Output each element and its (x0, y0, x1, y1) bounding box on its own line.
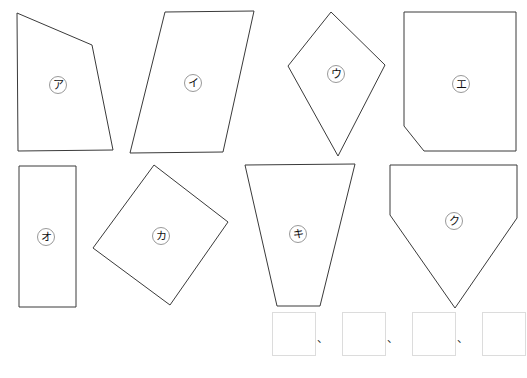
answer-box-3[interactable] (412, 312, 456, 356)
shape-ki[interactable]: キ (245, 164, 355, 306)
shape-ki-label-text: キ (293, 228, 304, 241)
shape-o-label-text: オ (41, 231, 52, 244)
shape-u[interactable]: ウ (288, 12, 385, 156)
shape-o[interactable]: オ (19, 166, 76, 307)
shape-u-label-text: ウ (331, 68, 342, 81)
answer-box-1[interactable] (272, 312, 316, 356)
shape-i-label-text: イ (188, 77, 199, 90)
shape-e-label-text: エ (456, 78, 467, 91)
shape-ku-label-text: ク (449, 215, 460, 228)
answer-separator-2: 、 (387, 334, 395, 348)
shape-a-outline[interactable] (17, 13, 113, 151)
answer-separator-3: 、 (457, 334, 465, 348)
answer-box-4[interactable] (482, 312, 526, 356)
shape-ku[interactable]: ク (390, 165, 517, 308)
answer-separator-1: 、 (317, 334, 325, 348)
shape-a-label-text: ア (53, 79, 64, 92)
shape-a[interactable]: ア (17, 13, 113, 151)
shape-group: アイウエオカキク (17, 11, 517, 308)
shape-u-outline[interactable] (288, 12, 385, 156)
shape-e[interactable]: エ (404, 12, 516, 151)
shape-ka-label-text: カ (156, 230, 167, 243)
answer-box-row: 、、、 (272, 312, 527, 362)
geometry-worksheet: アイウエオカキク 、、、 (0, 0, 527, 378)
shape-ka[interactable]: カ (93, 165, 228, 305)
answer-box-2[interactable] (342, 312, 386, 356)
shape-ku-outline[interactable] (390, 165, 517, 308)
shape-i[interactable]: イ (130, 11, 254, 153)
